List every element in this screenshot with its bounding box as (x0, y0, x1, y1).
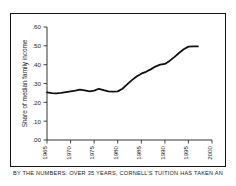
y-tick-label: .50 (32, 42, 41, 49)
y-tick-label: .30 (32, 80, 41, 87)
y-tick-label: .00 (32, 136, 41, 143)
x-tick-label: 1970 (65, 145, 72, 159)
y-axis-title: Share of median family income (21, 39, 29, 127)
y-axis-tick-labels: .60 .50 .40 .30 .20 .10 .00 (32, 23, 41, 143)
x-tick-label: 1965 (41, 145, 48, 159)
y-axis-ticks (44, 27, 48, 140)
y-tick-label: .10 (32, 118, 41, 125)
x-axis-ticks (47, 140, 212, 144)
figure-caption: BY THE NUMBERS: OVER 35 YEARS, CORNELL'S… (0, 170, 236, 176)
tuition-share-line-chart: .60 .50 .40 .30 .20 .10 .00 Share of med… (0, 0, 236, 186)
x-tick-label: 1990 (159, 145, 166, 159)
x-tick-label: 1980 (112, 145, 119, 159)
y-tick-label: .60 (32, 23, 41, 30)
chart-figure: .60 .50 .40 .30 .20 .10 .00 Share of med… (0, 0, 236, 186)
y-tick-label: .40 (32, 61, 41, 68)
x-tick-label: 1985 (135, 145, 142, 159)
tuition-share-data-line (47, 46, 198, 93)
x-tick-label: 1975 (88, 145, 95, 159)
x-tick-label: 2000 (206, 145, 213, 159)
x-axis-tick-labels: 1965 1970 1975 1980 1985 1990 1995 2000 (41, 145, 213, 159)
y-tick-label: .20 (32, 99, 41, 106)
x-tick-label: 1995 (182, 145, 189, 159)
